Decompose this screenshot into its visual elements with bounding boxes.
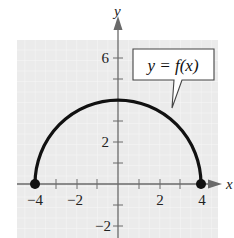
callout-label: y = f(x) xyxy=(145,56,198,75)
graph: −4 −2 2 4 6 2 −2 y x y = f(x) xyxy=(0,0,234,238)
y-tick-label: 6 xyxy=(102,50,110,66)
y-tick-label: 2 xyxy=(102,134,110,150)
x-tick-label: −4 xyxy=(27,192,43,208)
x-tick-label: −2 xyxy=(67,192,83,208)
x-axis-label: x xyxy=(225,176,233,192)
x-tick-label: 4 xyxy=(198,192,206,208)
endpoint-right xyxy=(196,179,206,189)
endpoint-left xyxy=(30,179,40,189)
y-tick-label: −2 xyxy=(95,218,111,234)
y-axis-label: y xyxy=(112,3,121,19)
x-tick-label: 2 xyxy=(156,192,164,208)
